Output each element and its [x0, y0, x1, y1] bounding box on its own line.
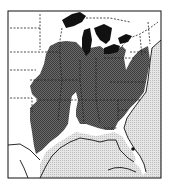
range-map: [0, 0, 170, 188]
isolated-record-marker: [131, 147, 135, 151]
